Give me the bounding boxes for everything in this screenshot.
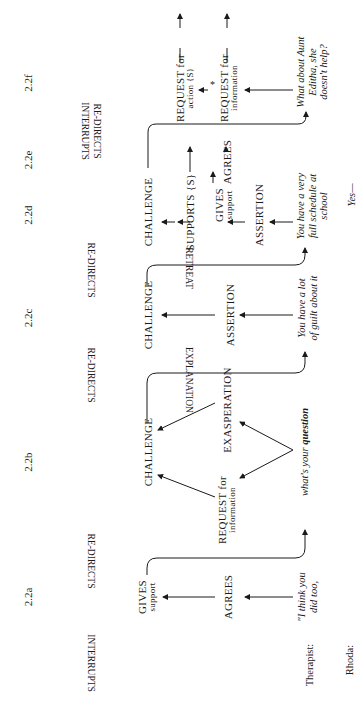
utterance-rhoda: Yes— xyxy=(347,184,358,207)
node-agrees: AGREES xyxy=(222,140,233,185)
node-agrees: AGREES xyxy=(223,575,234,620)
utterance-2-2a: "I think you did too, xyxy=(296,572,319,621)
redirects-label: RE-DIRECTS xyxy=(85,534,95,589)
section-label-2-2c: 2.2c xyxy=(23,309,34,328)
node-assertion: ASSERTION xyxy=(254,184,265,247)
node-challenge: CHALLENGE xyxy=(143,418,154,487)
interrupts-label: INTERRUPTS xyxy=(85,634,95,692)
discourse-analysis-diagram: 2.2a 2.2b 2.2c 2.2d 2.2e 2.2f INTERRUPTS… xyxy=(0,0,360,726)
star-marker: * xyxy=(210,80,215,90)
utterance-2-2b: what's your question xyxy=(300,408,311,496)
utterance-2-2f: What about Aunt Editha, she doesn't help… xyxy=(295,37,330,108)
utterance-2-2d: You have a very full schedule at school xyxy=(295,173,330,239)
node-request-information: REQUEST for information xyxy=(218,54,240,122)
speaker-therapist: Therapist: xyxy=(305,644,316,687)
utterance-2-2c: You have a lot of guilt about it xyxy=(296,275,319,340)
section-label-2-2d: 2.2d xyxy=(23,205,34,224)
node-supports: SUPPORTS {S} xyxy=(185,174,196,251)
node-request-information: REQUEST for information xyxy=(216,476,238,544)
node-assertion: ASSERTION xyxy=(225,284,236,347)
section-label-2-2b: 2.2b xyxy=(23,452,34,471)
redirects-label: RE-DIRECTS xyxy=(85,348,95,403)
node-challenge: CHALLENGE xyxy=(143,281,154,350)
retreat-label: RETREAT xyxy=(183,247,193,289)
explanation-label: EXPLANATION xyxy=(183,347,193,413)
speaker-rhoda: Rhoda: xyxy=(345,645,356,675)
section-label-2-2e: 2.2e xyxy=(23,151,34,170)
node-exasperation: EXASPERATION xyxy=(222,367,233,453)
section-label-2-2f: 2.2f xyxy=(23,74,34,91)
node-gives-support: GIVES support xyxy=(136,580,158,614)
redirects-label: RE-DIRECTS xyxy=(91,104,101,159)
node-request-action: REQUEST for action {S} xyxy=(174,54,196,122)
node-gives-support: GIVES support xyxy=(213,188,235,222)
interrupts-label: INTERRUPTS xyxy=(79,102,89,160)
node-challenge: CHALLENGE xyxy=(143,178,154,247)
redirects-label: RE-DIRECTS xyxy=(85,243,95,298)
section-label-2-2a: 2.2a xyxy=(23,588,34,607)
